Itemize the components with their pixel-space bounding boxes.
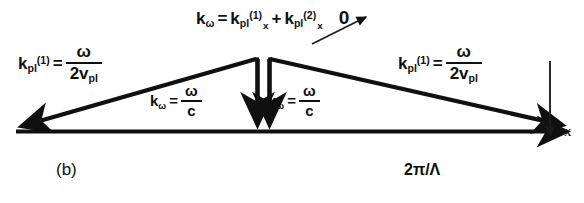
eq-center-l-denominator: c xyxy=(181,102,202,119)
eq-center-r-denominator: c xyxy=(299,102,320,119)
equation-photon-left: kω=ωc xyxy=(150,84,202,120)
eq-left-denominator-subscript: pl xyxy=(89,72,98,84)
eq-center-r-equals: = xyxy=(287,92,296,109)
panel-label: (b) xyxy=(56,161,77,178)
eq-left-lhs-superscript: (1) xyxy=(37,54,50,66)
eq-right-lhs-subscript: pl xyxy=(407,62,416,74)
eq-top-term2-superscript: (2) xyxy=(303,9,316,21)
eq-top-arrow-target: 0 xyxy=(339,7,350,28)
eq-center-r-fraction: ωc xyxy=(299,83,320,119)
eq-right-denominator-subscript: pl xyxy=(469,72,478,84)
eq-left-numerator: ω xyxy=(66,43,102,64)
grating-vector-label: 2π/Λ xyxy=(404,162,440,178)
eq-top-term1-symbol: k xyxy=(230,9,239,28)
eq-top-term1-superscript: (1) xyxy=(249,9,262,21)
eq-top-lhs-subscript: ω xyxy=(205,17,214,29)
eq-center-l-numerator: ω xyxy=(181,83,202,102)
eq-top-term2-symbol: k xyxy=(284,9,293,28)
eq-top-plus: + xyxy=(272,9,282,28)
eq-left-denominator: 2vpl xyxy=(66,64,102,84)
eq-right-equals: = xyxy=(433,54,443,73)
eq-center-l-lhs-subscript: ω xyxy=(158,101,166,111)
eq-right-fraction: ω2vpl xyxy=(446,43,482,84)
eq-left-lhs-subscript: pl xyxy=(27,62,36,74)
eq-center-l-fraction: ωc xyxy=(181,83,202,119)
equation-photon-right: kω=ωc xyxy=(268,84,320,120)
eq-top-term1-subscript: pl xyxy=(240,17,249,29)
eq-right-lhs-superscript: (1) xyxy=(417,54,430,66)
eq-center-r-lhs-subscript: ω xyxy=(276,101,284,111)
eq-top-term1-component: x xyxy=(263,20,268,31)
eq-top-term2-subscript: pl xyxy=(294,17,303,29)
eq-left-equals: = xyxy=(53,54,63,73)
eq-right-denominator: 2vpl xyxy=(446,64,482,84)
equation-momentum-conservation: kω=kpl(1)x+kpl(2)x0 xyxy=(196,8,349,31)
eq-right-denominator-coeff: 2v xyxy=(450,64,469,83)
eq-right-numerator: ω xyxy=(446,43,482,64)
eq-center-l-equals: = xyxy=(169,92,178,109)
eq-top-term2-component: x xyxy=(317,20,322,31)
axis-label-x: x xyxy=(564,124,572,139)
eq-left-denominator-coeff: 2v xyxy=(70,64,89,83)
eq-left-fraction: ω2vpl xyxy=(66,43,102,84)
phase-matching-diagram: kω=kpl(1)x+kpl(2)x0 kpl(1)=ω2vpl kpl(1)=… xyxy=(0,0,584,203)
equation-plasmon-right: kpl(1)=ω2vpl xyxy=(398,44,482,85)
eq-center-r-numerator: ω xyxy=(299,83,320,102)
equation-plasmon-left: kpl(1)=ω2vpl xyxy=(18,44,102,85)
eq-top-equals: = xyxy=(217,9,227,28)
